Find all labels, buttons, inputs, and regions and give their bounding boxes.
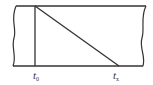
- diagonal-line: [35, 6, 119, 66]
- right-break-edge: [141, 6, 146, 66]
- label-tx-sub: x: [116, 76, 119, 82]
- left-break-edge: [13, 6, 16, 66]
- label-t0-sub: 0: [36, 76, 39, 82]
- strip-diagram: [0, 0, 153, 85]
- label-t0: t0: [33, 70, 39, 82]
- label-tx: tx: [113, 70, 119, 82]
